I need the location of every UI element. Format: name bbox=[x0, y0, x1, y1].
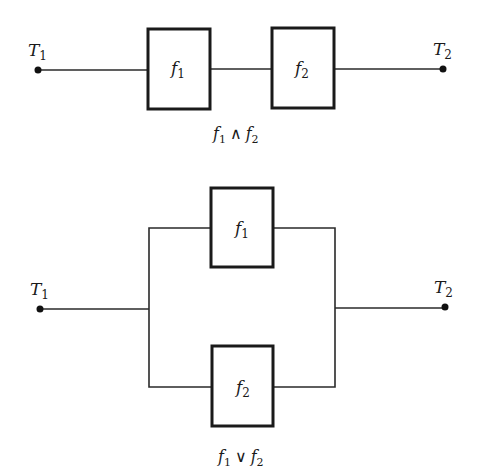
series-diagram: T1 T2 f1 f2 f1∧f2 bbox=[28, 28, 452, 146]
terminal-t2-label: T2 bbox=[433, 39, 452, 62]
terminal-t1-dot bbox=[37, 306, 44, 313]
terminal-t2-dot bbox=[442, 304, 449, 311]
terminal-t2-dot bbox=[440, 66, 447, 73]
terminal-t1-label: T1 bbox=[30, 279, 49, 302]
series-caption: f1∧f2 bbox=[212, 124, 259, 146]
parallel-diagram: T1 T2 f1 f2 f1∨f2 bbox=[30, 188, 453, 469]
terminal-t2-label: T2 bbox=[434, 277, 453, 300]
terminal-t1-dot bbox=[35, 67, 42, 74]
wire-left-branch bbox=[149, 228, 212, 387]
parallel-caption: f1∨f2 bbox=[217, 447, 264, 469]
wire-right-branch bbox=[273, 228, 335, 387]
terminal-t1-label: T1 bbox=[28, 40, 47, 63]
circuit-diagrams: T1 T2 f1 f2 f1∧f2 T1 T2 f1 f2 f1∨f2 bbox=[0, 0, 480, 475]
